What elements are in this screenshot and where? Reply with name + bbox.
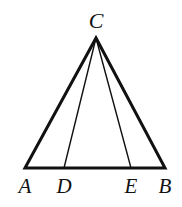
- vertex-label-c: C: [89, 8, 104, 33]
- cevian-line-ce: [96, 38, 131, 168]
- vertex-label-a: A: [12, 176, 38, 197]
- vertex-label-e: E: [118, 176, 144, 197]
- vertex-label-b: B: [152, 176, 178, 197]
- triangle-outline-abc: [25, 38, 165, 168]
- cevian-line-cd: [64, 38, 96, 168]
- geometry-figure: C A D E B: [0, 0, 182, 207]
- vertex-label-d: D: [51, 176, 77, 197]
